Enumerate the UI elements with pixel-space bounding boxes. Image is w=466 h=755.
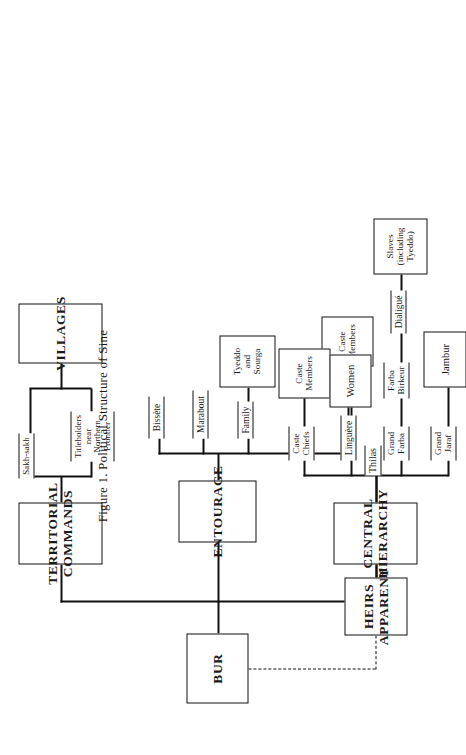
node-bissete[interactable]: Bissète: [148, 396, 164, 438]
node-dialigue-label: Dialigué: [393, 295, 403, 328]
node-slaves-label-line1: Slaves: [385, 232, 395, 260]
node-villages-label: VILLAGES: [53, 294, 68, 373]
figure-caption-text: Figure 1. Political Structure of Sine: [95, 330, 110, 522]
node-bur-label: BUR: [210, 651, 225, 685]
node-slaves-label-line2: (including: [395, 225, 405, 267]
node-caste-members-central[interactable]: Caste Members: [278, 348, 330, 398]
node-family-label: Family: [240, 406, 250, 433]
edge-grand-jaraf-to-jambur: [447, 386, 449, 432]
entourage-branch-vertical: [158, 453, 348, 455]
node-farba-birkeur[interactable]: Farba Birkeur: [383, 362, 409, 398]
edge-branch-to-marabout: [202, 438, 204, 454]
node-women[interactable]: Women: [329, 354, 371, 407]
node-bissete-label: Bissète: [151, 403, 161, 430]
node-territorial-commands[interactable]: TERRITORIAL COMMANDS: [18, 502, 102, 564]
node-family[interactable]: Family: [237, 401, 253, 438]
node-jambur[interactable]: Jambur: [423, 331, 466, 387]
node-entourage[interactable]: ENTOURAGE: [178, 480, 256, 542]
node-entourage-label: ENTOURAGE: [210, 463, 225, 559]
edge-branch-to-caste-chiefs: [303, 460, 305, 476]
node-farba-birkeur-label-line2: Birkeur: [395, 366, 405, 394]
edge-branch-to-linguere: [350, 460, 352, 476]
edge-bur-to-heirs-vertical: [248, 668, 375, 669]
node-territorial-commands-label-line2: COMMANDS: [60, 487, 75, 578]
node-caste-chiefs-label-line1: Caste: [290, 433, 300, 453]
node-thilas[interactable]: Thilas: [364, 445, 381, 475]
node-caste-members-entourage-label-line1: Caste: [337, 329, 347, 353]
node-sakh-sakh-label: Sakh-sakh: [20, 437, 30, 475]
node-marabout-label: Marabout: [195, 396, 205, 433]
node-tyeddo-and-sourga-label-line2: and: [242, 352, 252, 369]
territorial-branch-vertical: [29, 476, 91, 478]
node-slaves-including-tyeddo[interactable]: Slaves (including Tyeddo): [373, 218, 427, 274]
node-caste-chiefs[interactable]: Caste Chiefs: [288, 426, 314, 460]
node-grand-farba-label-line2: Farba: [395, 433, 405, 454]
node-titleholders-label-line1: Titleholders: [72, 414, 82, 457]
node-jambur-label: Jambur: [439, 342, 450, 377]
node-grand-jaraf-label-line1: Grand: [432, 432, 442, 455]
node-tyeddo-and-sourga-label-line1: Tyeddo: [232, 345, 242, 376]
node-central-hierarchy[interactable]: CENTRAL HIERARCHY: [333, 502, 417, 564]
node-sakh-sakh[interactable]: Sakh-sakh: [18, 433, 34, 478]
node-caste-members-central-label-line2: Members: [304, 354, 314, 393]
node-tyeddo-and-sourga-label-line3: Sourga: [252, 346, 262, 376]
node-villages[interactable]: VILLAGES: [18, 303, 102, 363]
node-grand-jaraf-label-line2: Jaraf: [442, 434, 452, 452]
node-grand-jaraf[interactable]: Grand Jaraf: [430, 426, 456, 460]
node-farba-birkeur-label-line1: Farba: [385, 370, 395, 391]
edge-titleholders-down: [90, 388, 92, 411]
node-heirs-apparent-label-line1: HEIRS: [361, 581, 376, 630]
node-bur[interactable]: BUR: [186, 633, 248, 703]
node-women-label: Women: [344, 362, 355, 398]
edge-branch-to-grand-jaraf: [447, 460, 449, 476]
edge-branch-to-grand-farba: [400, 460, 402, 476]
node-central-hierarchy-label-line1: CENTRAL: [360, 496, 375, 570]
node-grand-farba-label-line1: Grand: [385, 432, 395, 455]
node-caste-chiefs-label-line2: Chiefs: [300, 431, 310, 455]
node-tyeddo-and-sourga[interactable]: Tyeddo and Sourga: [219, 335, 275, 387]
edge-branch-to-family: [247, 438, 249, 454]
node-territorial-commands-label-line1: TERRITORIAL: [45, 480, 60, 586]
node-linguere[interactable]: Linguère: [340, 415, 356, 460]
node-dialigue[interactable]: Dialigué: [390, 290, 406, 333]
node-slaves-label-line3: Tyeddo): [405, 229, 415, 263]
node-central-hierarchy-label-line2: HIERARCHY: [375, 486, 390, 579]
figure-caption: Figure 1. Political Structure of Sine: [95, 261, 111, 591]
node-grand-farba[interactable]: Grand Farba: [383, 426, 409, 460]
node-marabout[interactable]: Marabout: [192, 390, 208, 438]
edge-bur-to-spine: [217, 601, 219, 633]
edge-sakh-sakh-down: [29, 388, 31, 433]
node-linguere-label: Linguère: [343, 420, 353, 454]
node-thilas-label: Thilas: [366, 448, 377, 473]
edge-branch-to-titleholders: [90, 461, 92, 477]
node-caste-members-central-label-line1: Caste: [294, 361, 304, 385]
edge-branch-to-bissete: [158, 438, 160, 454]
node-heirs-apparent[interactable]: HEIRS APPARENT: [344, 577, 407, 635]
